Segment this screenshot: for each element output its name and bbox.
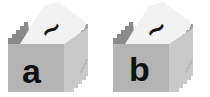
box-label-a: a — [22, 54, 41, 88]
card-box-b: ∼ b — [105, 0, 210, 97]
card-box-a: ∼ a — [0, 0, 105, 97]
box-label-b: b — [129, 52, 150, 86]
